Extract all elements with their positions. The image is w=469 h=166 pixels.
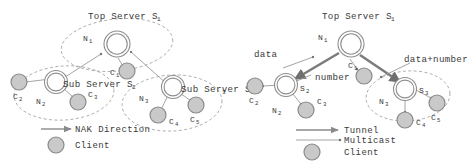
right-node-c5-label: C — [431, 113, 436, 122]
right-node-c3-label: C — [317, 97, 322, 106]
legend-client-icon-left — [48, 137, 64, 153]
group-ellipse-n2 — [12, 63, 116, 124]
right-node-c2-sub: 2 — [255, 100, 258, 107]
client-c4-right — [397, 112, 413, 128]
right-server-s3-inner — [396, 80, 414, 98]
left-node-c2-label: C — [13, 92, 18, 101]
right-top-server-label: Top Server S — [322, 11, 392, 22]
client-c1-right — [356, 68, 372, 84]
client-c5-left — [188, 97, 204, 113]
right-node-n2-label: N — [272, 106, 277, 115]
client-c1-left — [119, 63, 135, 79]
edge-label-data: data — [254, 49, 277, 60]
left-node-c4-sub: 4 — [175, 121, 179, 128]
left-panel: Top Server S 1 N 1 C 1 Sub Server S 2 Su… — [11, 11, 251, 153]
left-node-n2-label: N — [36, 97, 41, 106]
right-node-n1-sub: 1 — [324, 37, 328, 44]
left-sub-server-s3-label: Sub Server S — [181, 84, 251, 95]
legend-client-label-left: Client — [75, 141, 110, 151]
leader-data — [283, 57, 313, 68]
legend-tunnel-label: Tunnel — [344, 126, 379, 136]
left-node-c3-sub: 3 — [94, 94, 97, 101]
left-node-c2-sub: 2 — [19, 96, 22, 103]
legend-client-icon-right — [304, 144, 320, 160]
legend-nak-label: NAK Direction — [75, 125, 150, 135]
left-node-n3-label: N — [139, 94, 144, 103]
right-node-c1-label: C — [348, 61, 353, 70]
edge-label-number: number — [315, 72, 350, 83]
left-node-c1-label: C — [110, 68, 115, 77]
client-c5-right — [429, 95, 445, 111]
right-node-c3-sub: 3 — [323, 101, 326, 108]
client-c4-left — [150, 107, 166, 123]
client-c3-right — [298, 102, 314, 118]
left-node-n3-sub: 3 — [145, 98, 148, 105]
right-node-c4-sub: 4 — [422, 122, 426, 129]
edge-label-data-number: data+number — [404, 54, 468, 65]
left-sub-server-s3-sub: 3 — [222, 89, 226, 96]
right-panel: Top Server S 1 N 1 data number data+numb… — [247, 11, 468, 160]
left-node-c4-label: C — [169, 117, 174, 126]
left-node-n2-sub: 2 — [42, 101, 45, 108]
right-node-s2-label: S — [300, 84, 305, 93]
client-c2-right — [247, 78, 263, 94]
edge-mc-s2-c3 — [292, 93, 301, 104]
left-node-c5-label: C — [190, 115, 195, 124]
left-node-c3-label: C — [88, 90, 93, 99]
edge-s2-to-s1 — [62, 54, 101, 79]
left-sub-server-s2-sub: 2 — [132, 84, 136, 91]
client-c2-left — [11, 74, 27, 90]
client-c3-left — [70, 94, 86, 110]
right-node-c2-label: C — [249, 96, 254, 105]
leader-data-number — [381, 63, 410, 77]
right-server-s1-inner — [341, 34, 361, 54]
right-top-server-sub: 1 — [391, 16, 395, 23]
left-node-n1-label: N — [83, 34, 88, 43]
right-server-s2-inner — [277, 76, 295, 94]
left-node-c5-sub: 5 — [196, 119, 199, 126]
right-node-s3-label: S — [419, 86, 424, 95]
left-top-server-sub: 1 — [157, 16, 161, 23]
right-node-c4-label: C — [416, 118, 421, 127]
legend-multicast-label: Multicast — [344, 136, 396, 146]
left-node-n1-sub: 1 — [89, 38, 93, 45]
right-node-s3-sub: 3 — [425, 90, 428, 97]
diagram-canvas: Top Server S 1 N 1 C 1 Sub Server S 2 Su… — [0, 0, 469, 166]
right-node-n2-sub: 2 — [278, 110, 281, 117]
right-node-n1-label: N — [318, 33, 323, 42]
server-s3-inner — [164, 78, 182, 96]
left-top-server-label: Top Server S — [88, 11, 158, 22]
figure-root: Top Server S 1 N 1 C 1 Sub Server S 2 Su… — [0, 0, 469, 166]
left-sub-server-s2-label: Sub Server S — [63, 79, 133, 90]
right-node-n3-label: N — [379, 97, 384, 106]
server-s1-inner — [107, 34, 127, 54]
right-node-n3-sub: 3 — [385, 101, 388, 108]
right-node-s2-sub: 2 — [306, 88, 309, 95]
legend-client-label-right: Client — [344, 148, 379, 158]
right-node-c5-sub: 5 — [437, 117, 440, 124]
